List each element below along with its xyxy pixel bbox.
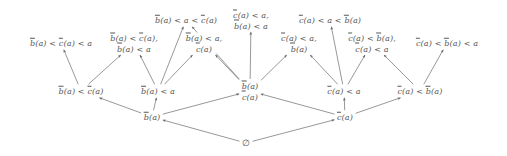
node-label-line: b(a) < a < c(a) bbox=[155, 15, 217, 26]
diagram-edge bbox=[261, 55, 287, 80]
node-label-line: c(a) < b(a) < a bbox=[416, 38, 478, 49]
node-label-line: b(a) bbox=[242, 81, 259, 92]
node-label-line: c(a) < a, bbox=[281, 33, 317, 44]
overbar-letter: c bbox=[281, 33, 286, 44]
node-label-line: c(a) < a, bbox=[233, 10, 269, 21]
overbar-letter: c bbox=[233, 10, 238, 21]
overbar-letter: c bbox=[242, 91, 247, 102]
diagram-node: b(a) < c(a) bbox=[57, 86, 104, 97]
overbar-letter: c bbox=[397, 86, 402, 97]
overbar-letter: b bbox=[344, 15, 349, 26]
diagram-edge bbox=[250, 32, 251, 79]
diagram-edge bbox=[140, 55, 155, 84]
diagram-node: c(a) < a,b(a) bbox=[280, 33, 318, 54]
diagram-node: b(a) < a < c(a) bbox=[154, 15, 218, 26]
diagram-edge bbox=[163, 94, 239, 114]
diagram-edge bbox=[356, 98, 401, 114]
hasse-diagram: ∅b(a)c(a)b(a) < c(a)b(a) < ab(a)c(a)c(a)… bbox=[0, 0, 507, 156]
diagram-edge bbox=[164, 55, 192, 84]
diagram-edge bbox=[384, 55, 413, 84]
overbar-letter: b bbox=[58, 86, 63, 97]
node-label-line: c(a) bbox=[242, 91, 259, 102]
diagram-edge bbox=[261, 94, 335, 114]
diagram-edge bbox=[154, 98, 157, 111]
node-label-line: c(a) < b(a), bbox=[348, 33, 396, 44]
overbar-letter: b bbox=[426, 86, 431, 97]
diagram-node: c(a) < b(a) < a bbox=[415, 38, 479, 49]
diagram-node: b(a) bbox=[143, 112, 162, 123]
node-label-line: b(a) < c(a) < a bbox=[30, 38, 92, 49]
overbar-letter: b bbox=[117, 43, 122, 54]
overbar-letter: c bbox=[196, 43, 201, 54]
overbar-letter: c bbox=[348, 33, 353, 44]
overbar-letter: b bbox=[110, 33, 115, 44]
overbar-letter: b bbox=[186, 33, 191, 44]
overbar-letter: b bbox=[376, 33, 381, 44]
node-label-line: b(a) < a, bbox=[186, 33, 223, 44]
node-label-line: b(a) bbox=[144, 112, 161, 123]
node-label-line: b(a) < a bbox=[110, 43, 158, 54]
diagram-node: c(a) < a bbox=[326, 86, 361, 97]
overbar-letter: b bbox=[155, 15, 160, 26]
diagram-node: c(a) bbox=[336, 112, 354, 123]
diagram-node: c(a) < a,b(a) < a bbox=[232, 10, 270, 31]
diagram-node: c(a) < b(a),c(a) < a bbox=[347, 33, 397, 54]
diagram-edge bbox=[253, 120, 335, 142]
overbar-letter: c bbox=[299, 15, 304, 26]
overbar-letter: b bbox=[144, 112, 149, 123]
overbar-letter: c bbox=[87, 86, 92, 97]
diagram-node: b(a)c(a) bbox=[241, 81, 260, 102]
overbar-letter: b bbox=[444, 38, 449, 49]
overbar-letter: b bbox=[291, 43, 296, 54]
node-label-line: b(a) < c(a), bbox=[110, 33, 158, 44]
overbar-letter: c bbox=[59, 38, 64, 49]
overbar-letter: b bbox=[141, 86, 146, 97]
diagram-edge bbox=[64, 50, 78, 85]
diagram-node: c(a) < a < b(a) bbox=[298, 15, 362, 26]
diagram-edge bbox=[348, 55, 365, 84]
diagram-edge bbox=[331, 27, 342, 85]
diagram-node: b(a) < a,c(a) bbox=[185, 33, 224, 54]
node-label-line: b(a) < a bbox=[141, 86, 175, 97]
overbar-letter: c bbox=[337, 112, 342, 123]
diagram-node: b(a) < c(a),b(a) < a bbox=[109, 33, 159, 54]
node-label-line: b(a) < a bbox=[233, 20, 269, 31]
node-label-line: c(a) bbox=[337, 112, 353, 123]
overbar-letter: c bbox=[327, 86, 332, 97]
node-label-line: c(a) < a < b(a) bbox=[299, 15, 361, 26]
diagram-node: b(a) < c(a) < a bbox=[29, 38, 93, 49]
overbar-letter: c bbox=[355, 43, 360, 54]
diagram-node: c(a) < b(a) bbox=[396, 86, 443, 97]
overbar-letter: b bbox=[242, 81, 247, 92]
diagram-node: b(a) < a bbox=[140, 86, 176, 97]
node-label-line: c(a) < b(a) bbox=[397, 86, 442, 97]
diagram-node: ∅ bbox=[241, 138, 251, 149]
overbar-letter: c bbox=[139, 33, 144, 44]
node-label-line: c(a) bbox=[186, 43, 223, 54]
node-label-line: ∅ bbox=[242, 138, 250, 149]
diagram-edge bbox=[310, 55, 337, 84]
node-label-line: b(a) < c(a) bbox=[58, 86, 103, 97]
diagram-edge bbox=[99, 98, 141, 113]
overbar-letter: c bbox=[201, 15, 206, 26]
diagram-edge bbox=[163, 120, 240, 141]
node-label-line: b(a) bbox=[281, 43, 317, 54]
node-label-line: c(a) < a bbox=[348, 43, 396, 54]
node-label-line: c(a) < a bbox=[327, 86, 360, 97]
diagram-edge bbox=[216, 55, 240, 80]
overbar-letter: b bbox=[234, 20, 239, 31]
overbar-letter: c bbox=[416, 38, 421, 49]
diagram-edge bbox=[424, 50, 443, 85]
diagram-edge bbox=[161, 27, 184, 85]
overbar-letter: b bbox=[30, 38, 35, 49]
diagram-edge bbox=[88, 55, 120, 84]
